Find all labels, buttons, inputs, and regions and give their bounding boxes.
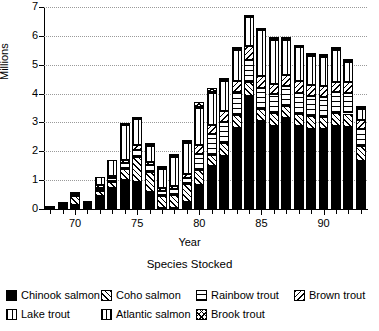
legend-item-lake-trout[interactable]: Lake trout xyxy=(6,309,70,320)
bar-segment-lake-trout xyxy=(120,125,130,160)
bar-segment-chinook-salmon xyxy=(95,196,105,209)
legend-item-coho-salmon[interactable]: Coho salmon xyxy=(101,290,181,301)
bar-segment-rainbow-trout xyxy=(157,191,167,196)
bar-92[interactable] xyxy=(343,60,353,209)
legend-item-rainbow-trout[interactable]: Rainbow trout xyxy=(196,290,279,301)
bar-segment-chinook-salmon xyxy=(207,166,217,209)
bar-74[interactable] xyxy=(120,124,130,209)
x-axis-tick xyxy=(63,209,64,214)
x-axis-tick-label: 85 xyxy=(246,217,276,229)
bar-87[interactable] xyxy=(281,38,291,209)
bar-segment-rainbow-trout xyxy=(294,93,304,114)
bar-segment-chinook-salmon xyxy=(244,96,254,209)
legend-item-brown-trout[interactable]: Brown trout xyxy=(294,290,365,301)
bar-81[interactable] xyxy=(207,88,217,209)
bar-segment-rainbow-trout xyxy=(343,93,353,113)
bar-segment-brook-trout xyxy=(269,37,279,39)
bar-72[interactable] xyxy=(95,177,105,209)
bar-73[interactable] xyxy=(107,160,117,209)
x-axis-tick xyxy=(237,209,238,214)
bar-93[interactable] xyxy=(356,107,366,209)
bar-segment-brook-trout xyxy=(194,102,204,107)
bar-76[interactable] xyxy=(145,145,155,209)
bar-segment-brown-trout xyxy=(256,76,266,88)
bar-segment-brook-trout xyxy=(343,59,353,61)
legend-item-label: Chinook salmon xyxy=(21,290,100,301)
legend-item-label: Atlantic salmon xyxy=(116,309,191,320)
bar-segment-lake-trout xyxy=(182,143,192,174)
bar-segment-rainbow-trout xyxy=(194,154,204,171)
y-axis-tick-label: 4 xyxy=(22,88,38,99)
bar-segment-lake-trout xyxy=(70,192,80,194)
bar-71[interactable] xyxy=(83,202,93,209)
bar-segment-rainbow-trout xyxy=(319,97,329,117)
bar-80[interactable] xyxy=(194,102,204,209)
bar-segment-chinook-salmon xyxy=(331,126,341,209)
legend-swatch-icon xyxy=(101,309,112,320)
bar-segment-brown-trout xyxy=(306,85,316,96)
legend-swatch-icon xyxy=(6,290,17,301)
bar-segment-brook-trout xyxy=(244,15,254,17)
bar-70[interactable] xyxy=(70,193,80,209)
legend-item-atlantic-salmon[interactable]: Atlantic salmon xyxy=(101,309,191,320)
bar-88[interactable] xyxy=(294,46,304,209)
x-axis-line xyxy=(44,209,368,210)
y-axis-tick-label: 0 xyxy=(22,203,38,214)
bar-segment-brook-trout xyxy=(281,37,291,39)
bar-90[interactable] xyxy=(319,55,329,209)
bar-77[interactable] xyxy=(157,167,167,209)
x-axis-tick xyxy=(125,209,126,214)
bar-segment-brook-trout xyxy=(232,47,242,49)
bar-segment-brook-trout xyxy=(207,88,217,93)
bar-segment-coho-salmon xyxy=(120,169,130,180)
y-axis-tick-label: 7 xyxy=(22,1,38,12)
x-axis-tick xyxy=(162,209,163,214)
bar-segment-brown-trout xyxy=(95,185,105,187)
bar-segment-coho-salmon xyxy=(319,117,329,129)
bar-82[interactable] xyxy=(219,79,229,209)
bar-86[interactable] xyxy=(269,39,279,209)
legend-item-brook-trout[interactable]: Brook trout xyxy=(196,309,265,320)
bar-75[interactable] xyxy=(132,118,142,209)
legend-item-chinook-salmon[interactable]: Chinook salmon xyxy=(6,290,100,301)
legend-item-label: Coho salmon xyxy=(116,290,181,301)
bar-segment-coho-salmon xyxy=(343,114,353,127)
bar-83[interactable] xyxy=(232,49,242,209)
bar-segment-rainbow-trout xyxy=(107,178,117,182)
bar-segment-brook-trout xyxy=(169,154,179,156)
bar-segment-coho-salmon xyxy=(95,191,105,197)
bar-segment-coho-salmon xyxy=(356,146,366,161)
bar-segment-coho-salmon xyxy=(107,182,117,188)
bar-segment-lake-trout xyxy=(294,47,304,81)
bar-segment-brown-trout xyxy=(232,81,242,92)
legend-swatch-icon xyxy=(196,290,207,301)
gridline xyxy=(44,7,367,8)
legend-swatch-icon xyxy=(294,290,305,301)
x-axis-tick xyxy=(261,209,262,215)
bar-segment-chinook-salmon xyxy=(132,182,142,209)
bar-segment-brook-trout xyxy=(145,143,155,145)
y-axis-tick-label: 2 xyxy=(22,145,38,156)
bar-segment-rainbow-trout xyxy=(331,92,341,113)
bar-84[interactable] xyxy=(244,16,254,209)
bar-segment-lake-trout xyxy=(207,93,217,125)
y-axis-title: Millions xyxy=(0,43,10,80)
bar-segment-coho-salmon xyxy=(194,170,204,185)
legend-row: Lake troutAtlantic salmonBrook trout xyxy=(6,305,377,324)
chart-figure: Millions Year 01234567 Species Stocked C… xyxy=(0,0,379,331)
bar-segment-brown-trout xyxy=(182,174,192,178)
bar-79[interactable] xyxy=(182,140,192,209)
x-axis-tick xyxy=(249,209,250,214)
bar-91[interactable] xyxy=(331,49,341,209)
x-axis-tick-label: 90 xyxy=(309,217,339,229)
y-axis-tick xyxy=(39,65,44,66)
bar-78[interactable] xyxy=(169,156,179,209)
bar-segment-chinook-salmon xyxy=(219,156,229,209)
bar-85[interactable] xyxy=(256,29,266,209)
legend-title: Species Stocked xyxy=(0,258,379,270)
x-axis-tick xyxy=(87,209,88,214)
x-axis-tick xyxy=(75,209,76,215)
bar-89[interactable] xyxy=(306,55,316,209)
bar-segment-coho-salmon xyxy=(169,195,179,208)
bar-segment-coho-salmon xyxy=(232,115,242,128)
